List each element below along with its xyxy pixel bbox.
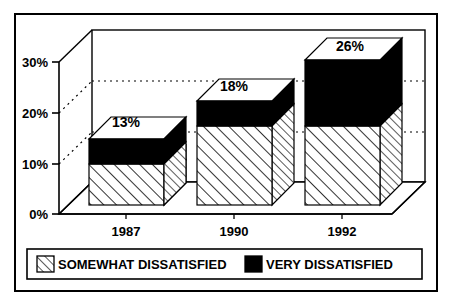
legend-label-very-dissatisfied: VERY DISSATISFIED — [266, 257, 393, 272]
x-axis-label-1987: 1987 — [112, 224, 141, 239]
legend-item-very-dissatisfied[interactable]: VERY DISSATISFIED — [245, 256, 393, 272]
legend-swatch-hatch-icon — [37, 256, 54, 272]
legend-swatch-solid-icon — [245, 256, 262, 272]
bar-1990-value-label: 18% — [220, 78, 249, 94]
y-axis-label-30: 30% — [22, 55, 48, 70]
y-axis-label-10: 10% — [22, 157, 48, 172]
chart-legend: SOMEWHAT DISSATISFIED VERY DISSATISFIED — [27, 249, 422, 279]
bar-1990[interactable] — [197, 79, 294, 205]
bar-1990-segment-very — [197, 101, 272, 126]
y-axis-label-0: 0% — [29, 207, 48, 222]
bar-1992-value-label: 26% — [336, 38, 365, 54]
stacked-bar-chart: 13% 18% 26% 30% 20% 10% 0% 1987 1990 199… — [0, 0, 450, 305]
bar-1987-segment-very — [89, 139, 164, 164]
y-axis-label-20: 20% — [22, 106, 48, 121]
legend-item-somewhat-dissatisfied[interactable]: SOMEWHAT DISSATISFIED — [37, 256, 227, 272]
bar-1987[interactable] — [89, 117, 186, 205]
bar-1992-segment-somewhat — [305, 126, 380, 205]
bar-1990-segment-somewhat — [197, 126, 272, 205]
bar-1992[interactable] — [305, 38, 402, 205]
chart-figure: 13% 18% 26% 30% 20% 10% 0% 1987 1990 199… — [0, 0, 450, 305]
bar-1992-segment-very — [305, 60, 380, 126]
bar-1987-segment-somewhat — [89, 164, 164, 205]
x-axis-label-1992: 1992 — [328, 224, 357, 239]
legend-label-somewhat-dissatisfied: SOMEWHAT DISSATISFIED — [58, 257, 227, 272]
bar-1987-value-label: 13% — [112, 114, 141, 130]
x-axis-label-1990: 1990 — [220, 224, 249, 239]
